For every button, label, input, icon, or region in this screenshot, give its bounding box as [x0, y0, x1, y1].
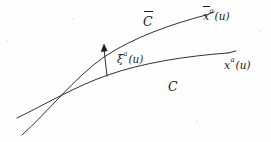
- lower-curve-name-label: C: [168, 78, 178, 94]
- deviation-vector-arrowhead: [101, 44, 107, 52]
- x-argument: (u): [236, 59, 251, 71]
- c-bar-symbol: C: [143, 14, 153, 29]
- c-symbol: C: [168, 79, 178, 94]
- overbar-rule: [144, 11, 153, 12]
- geodesic-deviation-figure: x a(u) xa(u) C C ξa(u): [0, 0, 271, 142]
- lower-curve-end-tick: [228, 51, 236, 53]
- deviation-vector-shaft: [104, 49, 107, 76]
- c-bar-overbar-group: C: [143, 13, 153, 29]
- deviation-vector-label: ξa(u): [117, 50, 143, 66]
- lower-curve-endpoint-label: xa(u): [224, 56, 251, 72]
- upper-curve-c-bar: [22, 15, 206, 135]
- xi-argument: (u): [128, 53, 143, 65]
- x-bar-superscript: a: [209, 7, 213, 15]
- xi-superscript: a: [123, 50, 127, 58]
- x-bar-argument: (u): [215, 10, 230, 22]
- upper-curve-endpoint-label: x a(u): [203, 7, 230, 23]
- upper-curve-name-label: C: [143, 13, 153, 29]
- x-superscript: a: [230, 56, 234, 64]
